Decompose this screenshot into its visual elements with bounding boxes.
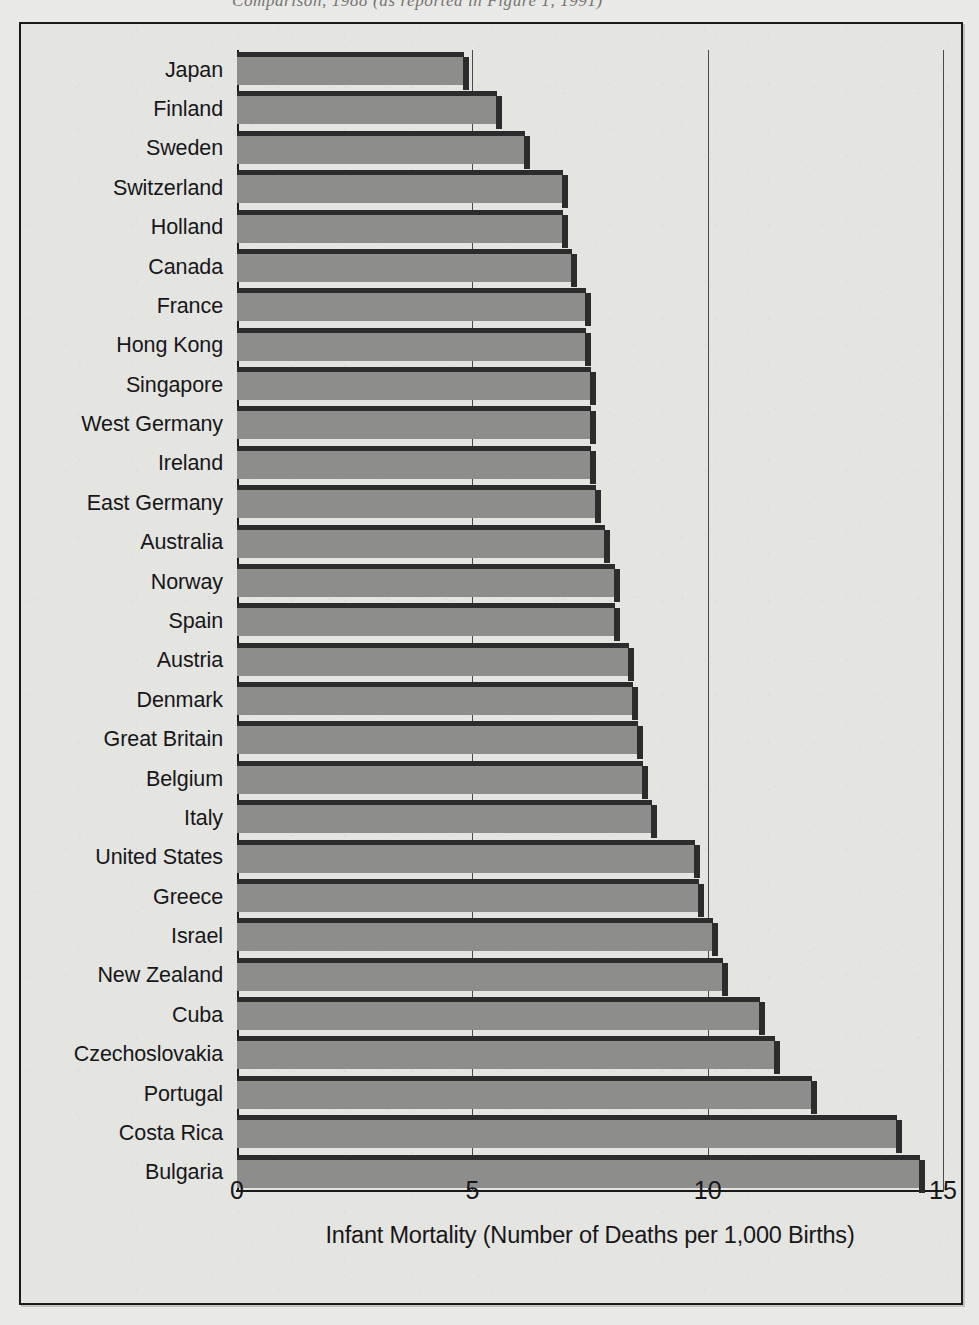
bar-face	[237, 1115, 897, 1148]
plot-area: JapanFinlandSwedenSwitzerlandHollandCana…	[237, 50, 943, 1192]
category-label: Sweden	[146, 136, 223, 161]
bar	[237, 485, 601, 518]
bar-face	[237, 643, 629, 676]
category-label: Canada	[148, 254, 223, 279]
bar	[237, 1076, 817, 1109]
category-label: Hong Kong	[116, 333, 223, 358]
bar	[237, 682, 638, 715]
bar	[237, 721, 643, 754]
bar	[237, 840, 700, 873]
bar-row: Holland	[237, 208, 943, 247]
bar-face	[237, 997, 760, 1030]
bar-side-face	[637, 726, 643, 759]
bar	[237, 328, 591, 361]
bar-row: Sweden	[237, 129, 943, 168]
bar	[237, 643, 634, 676]
bar-face	[237, 958, 723, 991]
bar-face	[237, 761, 643, 794]
bar-face	[237, 1036, 775, 1069]
bar-face	[237, 525, 605, 558]
category-label: Australia	[140, 530, 223, 555]
x-tick-15: 15	[929, 1176, 957, 1205]
bar-side-face	[759, 1002, 765, 1035]
bar	[237, 879, 704, 912]
bar-row: Hong Kong	[237, 326, 943, 365]
bar-row: Bulgaria	[237, 1153, 943, 1192]
bar	[237, 446, 596, 479]
category-label: Switzerland	[113, 175, 223, 200]
category-label: Bulgaria	[145, 1160, 223, 1185]
bar-side-face	[698, 884, 704, 917]
bar-face	[237, 446, 591, 479]
bar-face	[237, 840, 695, 873]
bar-face	[237, 918, 713, 951]
category-label: Singapore	[126, 372, 223, 397]
bar-row: Great Britain	[237, 719, 943, 758]
category-label: Israel	[171, 924, 223, 949]
bar-face	[237, 721, 638, 754]
bar-row: East Germany	[237, 483, 943, 522]
bar	[237, 52, 469, 85]
category-label: New Zealand	[97, 963, 223, 988]
x-tick-10: 10	[694, 1176, 722, 1205]
x-tick-0: 0	[230, 1176, 244, 1205]
bar-side-face	[642, 766, 648, 799]
category-label: Czechoslovakia	[74, 1042, 223, 1067]
bar-face	[237, 210, 563, 243]
bar-row: Belgium	[237, 759, 943, 798]
bar-side-face	[614, 608, 620, 641]
bar	[237, 210, 568, 243]
category-label: France	[157, 293, 223, 318]
bar-side-face	[811, 1081, 817, 1114]
figure-frame: JapanFinlandSwedenSwitzerlandHollandCana…	[19, 22, 963, 1305]
bar-side-face	[896, 1120, 902, 1153]
bar	[237, 1115, 902, 1148]
category-label: Costa Rica	[119, 1120, 223, 1145]
bar-side-face	[590, 372, 596, 405]
bar-row: Singapore	[237, 365, 943, 404]
top-caption-fragment: Comparison, 1988 (as reported in Figure …	[232, 0, 732, 11]
bar-face	[237, 170, 563, 203]
bar-side-face	[585, 293, 591, 326]
bar-face	[237, 879, 699, 912]
bar-row: West Germany	[237, 404, 943, 443]
bar-side-face	[614, 569, 620, 602]
bar	[237, 761, 648, 794]
bar-face	[237, 52, 464, 85]
bar-side-face	[628, 648, 634, 681]
category-label: Italy	[184, 805, 223, 830]
bar	[237, 800, 657, 833]
bar-side-face	[722, 963, 728, 996]
bar-row: Austria	[237, 641, 943, 680]
bar	[237, 958, 728, 991]
bar	[237, 91, 502, 124]
bar-side-face	[712, 923, 718, 956]
bar-face	[237, 131, 525, 164]
bar-row: Switzerland	[237, 168, 943, 207]
gridline-15	[943, 50, 944, 1192]
bar-side-face	[585, 333, 591, 366]
bar-row: Italy	[237, 798, 943, 837]
bar-row: Czechoslovakia	[237, 1034, 943, 1073]
bar-face	[237, 564, 615, 597]
bar	[237, 1036, 780, 1069]
bar-side-face	[571, 254, 577, 287]
category-label: Great Britain	[104, 727, 223, 752]
bar-face	[237, 1155, 920, 1188]
category-label: West Germany	[81, 412, 223, 437]
bar-face	[237, 800, 652, 833]
bar-row: Spain	[237, 601, 943, 640]
bar-side-face	[590, 411, 596, 444]
category-label: Austria	[157, 648, 223, 673]
bar-side-face	[774, 1041, 780, 1074]
category-label: Holland	[151, 215, 223, 240]
bar-face	[237, 367, 591, 400]
bar	[237, 249, 577, 282]
bar-side-face	[562, 215, 568, 248]
bar-face	[237, 682, 633, 715]
bar-face	[237, 91, 497, 124]
bar-row: Portugal	[237, 1074, 943, 1113]
category-label: Spain	[169, 608, 224, 633]
bar-face	[237, 485, 596, 518]
bar	[237, 997, 765, 1030]
